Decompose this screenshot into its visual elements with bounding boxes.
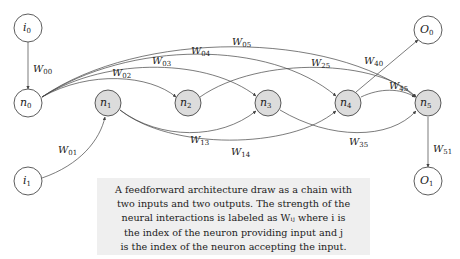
caption-line: two inputs and two outputs. The strength…: [101, 197, 366, 211]
node-i0: i0: [14, 14, 42, 42]
label-w13: W13: [190, 134, 209, 147]
edge-w03: [42, 67, 256, 97]
caption-line: neural interactions is labeled as Wᵢⱼ wh…: [101, 211, 366, 225]
label-w03: W03: [152, 55, 171, 68]
node-o0: O0: [414, 16, 442, 44]
label-w40: W40: [364, 55, 383, 68]
label-w00: W00: [33, 63, 52, 76]
caption-line: A feedforward architecture draw as a cha…: [101, 183, 366, 197]
caption-box: A feedforward architecture draw as a cha…: [97, 178, 370, 255]
nodes: i0 n0 n1 n2 n3 n4 n5 O0 i1 O1: [14, 14, 442, 195]
caption-line: the index of the neuron providing input …: [101, 226, 366, 240]
label-w14: W14: [231, 146, 251, 159]
node-o1: O1: [414, 167, 442, 195]
node-n5: n5: [415, 90, 441, 116]
label-w01: W01: [58, 144, 77, 157]
edge-w40: [356, 40, 418, 92]
node-n1: n1: [95, 90, 121, 116]
label-w45: W45: [389, 80, 408, 93]
label-w25: W25: [311, 57, 330, 70]
node-n0: n0: [14, 89, 42, 117]
label-w35: W35: [349, 136, 368, 149]
node-n2: n2: [175, 90, 201, 116]
label-w51: W51: [433, 143, 452, 156]
node-i1: i1: [14, 167, 42, 195]
edge-w01: [42, 117, 105, 178]
caption-line: is the index of the neuron accepting the…: [101, 240, 366, 254]
node-n4: n4: [335, 90, 361, 116]
label-w04: W04: [191, 45, 211, 58]
edge-w14: [120, 110, 336, 140]
node-n3: n3: [255, 90, 281, 116]
